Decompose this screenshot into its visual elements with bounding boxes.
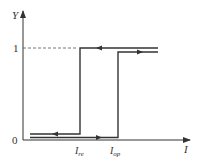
x-tick-operate-sub: op — [113, 150, 121, 158]
arrow-right-icon — [137, 50, 143, 55]
x-tick-release-label: Ire — [74, 145, 84, 158]
y-tick-one-label: 1 — [13, 42, 19, 54]
x-axis-label: I — [183, 143, 189, 155]
arrow-left-icon — [96, 46, 102, 51]
arrow-right-icon — [96, 135, 102, 140]
arrow-left-icon — [52, 132, 58, 137]
hysteresis-diagram: Y 1 0 I Ire Iop — [0, 0, 204, 164]
dropout-path — [30, 46, 158, 137]
y-axis-label: Y — [12, 9, 20, 21]
origin-label: 0 — [12, 134, 18, 146]
pickup-path — [30, 50, 158, 141]
x-tick-release-sub: re — [78, 150, 84, 158]
x-tick-operate-label: Iop — [109, 145, 121, 158]
